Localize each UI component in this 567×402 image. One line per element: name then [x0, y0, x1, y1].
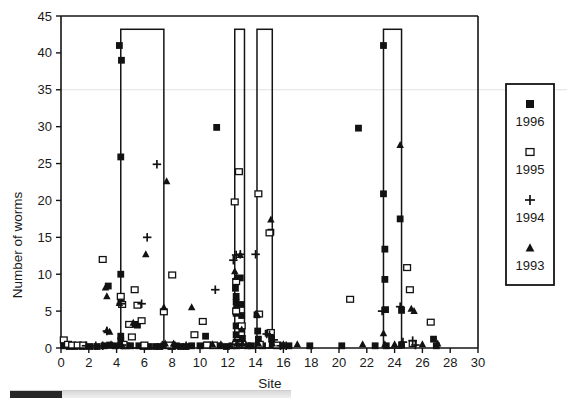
data-point — [199, 319, 206, 325]
x-tick-label: 14 — [248, 355, 262, 370]
data-point — [254, 328, 261, 335]
x-tick-label: 22 — [360, 355, 374, 370]
data-point — [359, 340, 366, 347]
x-tick-label: 28 — [443, 355, 457, 370]
data-point — [380, 42, 387, 49]
x-tick-label: 16 — [276, 355, 290, 370]
data-point — [138, 318, 145, 324]
y-tick-label: 30 — [38, 119, 52, 134]
series-1995 — [60, 169, 434, 348]
data-point — [381, 276, 388, 283]
data-point — [427, 319, 434, 325]
y-axis-title: Number of worms — [10, 191, 25, 298]
data-point — [406, 287, 413, 293]
data-point — [236, 169, 243, 175]
data-point — [160, 303, 167, 310]
data-point — [380, 329, 387, 336]
scrollbar-thumb[interactable] — [10, 391, 62, 398]
x-tick-label: 20 — [332, 355, 346, 370]
x-tick-label: 26 — [415, 355, 429, 370]
data-point — [233, 308, 240, 314]
y-tick-label: 20 — [38, 193, 52, 208]
data-point — [397, 215, 404, 222]
data-point — [103, 292, 110, 299]
worm-count-scatter-chart: 0510152025303540450246810121416182022242… — [0, 0, 567, 402]
x-tick-label: 30 — [471, 355, 485, 370]
data-point — [191, 332, 198, 338]
data-point — [211, 285, 220, 294]
data-point — [231, 267, 238, 274]
x-tick-label: 4 — [113, 355, 120, 370]
x-tick-label: 2 — [85, 355, 92, 370]
data-point — [143, 233, 152, 242]
data-point — [153, 160, 162, 169]
data-point — [141, 342, 148, 348]
figure-root: 0510152025303540450246810121416182022242… — [0, 0, 567, 402]
y-tick-label: 15 — [38, 230, 52, 245]
data-point — [430, 336, 437, 343]
data-point — [306, 342, 313, 349]
data-point — [142, 250, 149, 257]
data-point — [267, 216, 274, 223]
site-range-boxes — [121, 29, 402, 348]
data-point — [197, 342, 204, 349]
x-axis-title: Site — [258, 376, 281, 391]
legend-marker-filled-square-icon — [526, 100, 534, 108]
y-tick-label: 35 — [38, 82, 52, 97]
x-tick-label: 8 — [169, 355, 176, 370]
horizontal-scrollbar[interactable] — [10, 390, 291, 398]
data-point — [419, 340, 426, 347]
legend-marker-open-square-icon — [526, 149, 534, 156]
data-point — [127, 342, 134, 349]
y-tick-label: 10 — [38, 267, 52, 282]
data-point — [169, 272, 176, 278]
y-tick-label: 45 — [38, 9, 52, 24]
legend-label: 1995 — [516, 162, 545, 177]
data-point — [233, 293, 240, 300]
legend: 1996199519941993 — [506, 84, 554, 285]
data-point — [116, 42, 123, 49]
y-tick-label: 40 — [38, 45, 52, 60]
data-point — [382, 306, 389, 313]
data-point — [372, 342, 379, 349]
legend-label: 1994 — [516, 210, 545, 225]
data-point — [396, 141, 403, 148]
y-tick-label: 0 — [45, 341, 52, 356]
data-point — [117, 293, 124, 299]
data-point — [117, 154, 124, 161]
x-tick-label: 6 — [141, 355, 148, 370]
legend-label: 1996 — [516, 114, 545, 129]
y-tick-label: 25 — [38, 156, 52, 171]
data-point — [251, 250, 260, 259]
x-tick-label: 0 — [57, 355, 64, 370]
data-point — [231, 199, 238, 205]
data-point — [266, 230, 273, 236]
data-point — [347, 296, 354, 302]
data-point — [404, 265, 411, 271]
data-point — [398, 307, 405, 314]
data-point — [391, 340, 398, 347]
data-point — [355, 125, 362, 132]
data-point — [381, 246, 388, 253]
x-tick-label: 12 — [221, 355, 235, 370]
data-point — [118, 57, 125, 64]
data-point — [117, 271, 124, 278]
data-point — [99, 257, 106, 263]
data-point — [380, 190, 387, 197]
data-point — [248, 342, 255, 349]
x-tick-label: 24 — [387, 355, 401, 370]
data-point — [131, 287, 138, 293]
data-point — [213, 124, 220, 131]
data-point — [255, 191, 262, 197]
y-tick-label: 5 — [45, 304, 52, 319]
x-tick-label: 10 — [193, 355, 207, 370]
legend-label: 1993 — [516, 258, 545, 273]
data-points — [60, 42, 441, 350]
data-point — [294, 340, 301, 347]
data-point — [128, 334, 135, 340]
x-tick-label: 18 — [304, 355, 318, 370]
data-point — [338, 342, 345, 349]
data-point — [232, 285, 239, 292]
data-point — [202, 333, 209, 340]
data-point — [188, 303, 195, 310]
